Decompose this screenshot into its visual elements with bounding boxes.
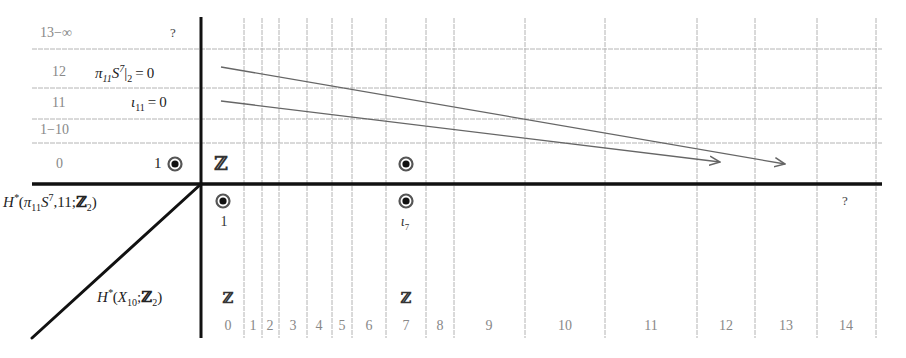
row-annotation-unknown: ?	[170, 25, 176, 41]
row-label-13-inf: 13−∞	[40, 25, 72, 41]
column-label-12: 12	[719, 318, 733, 334]
fiber-cohomology-label: H*(π11S7,11;ℤ2)	[3, 192, 97, 213]
spectral-sequence-diagram: 13−∞ 12 11 1−10 0 ? π11S7|2 = 0 ι11 = 0 …	[0, 0, 906, 358]
column-label-4: 4	[316, 318, 323, 334]
column-label-14: 14	[839, 318, 853, 334]
column-label-0: 0	[225, 318, 232, 334]
row-label-11: 11	[52, 95, 65, 111]
column-label-9: 9	[486, 318, 493, 334]
column-label-2: 2	[267, 318, 274, 334]
column-label-10: 10	[558, 318, 572, 334]
dot-core	[402, 160, 409, 167]
generator-label-iota7: ι7	[401, 214, 409, 232]
generator-dot-row0-base	[169, 158, 182, 171]
generator-dot-col7-top	[400, 158, 413, 171]
column-label-3: 3	[290, 318, 297, 334]
column-label-11: 11	[644, 318, 657, 334]
dot-core	[402, 197, 409, 204]
base-cohomology-label: H*(X10;ℤ2)	[97, 287, 162, 308]
column-label-8: 8	[437, 318, 444, 334]
row-annotation-pi11-restriction: π11S7|2 = 0	[95, 63, 154, 84]
dot-core	[219, 197, 226, 204]
row-annotation-iota11: ι11 = 0	[131, 94, 167, 113]
base-Z-col7: ℤ	[401, 289, 412, 307]
generator-dot-fiber-col7	[400, 195, 413, 208]
column-label-6: 6	[366, 318, 373, 334]
column-label-7: 7	[403, 318, 410, 334]
group-Z-col0-top: ℤ	[214, 152, 228, 174]
base-Z-col0: ℤ	[223, 289, 234, 307]
generator-dot-fiber-col0	[217, 195, 230, 208]
differential-arrow	[221, 67, 785, 164]
column-label-1: 1	[250, 318, 257, 334]
column-label-13: 13	[779, 318, 793, 334]
vertical-gridlines	[244, 18, 876, 338]
column-label-5: 5	[339, 318, 346, 334]
dot-core	[171, 160, 178, 167]
generator-label-1: 1	[221, 214, 228, 230]
differential-arrows	[221, 67, 785, 164]
row-annotation-one: 1	[154, 155, 162, 172]
row-label-1-10: 1−10	[40, 122, 69, 138]
fiber-unknown-col14: ?	[842, 193, 848, 209]
row-label-0: 0	[56, 156, 63, 172]
row-label-12: 12	[52, 64, 66, 80]
